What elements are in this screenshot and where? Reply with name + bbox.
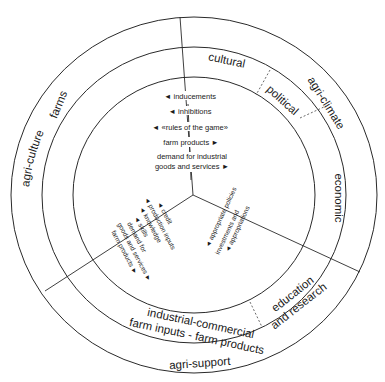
dashed-divider-industrial-education xyxy=(250,302,262,327)
item-inhibitions: ◄ inhibitions xyxy=(169,107,212,116)
center-top-list: ◄ inducements ◄ inhibitions ◄ «rules of … xyxy=(148,91,232,172)
label-cultural: cultural xyxy=(207,50,246,69)
label-agri-support: agri-support xyxy=(169,355,232,371)
label-agri-culture: agri-culture xyxy=(19,128,46,188)
item-inducements: ◄ inducements xyxy=(164,92,216,101)
agriculture-system-diagram: agri-culture agri-climate agri-support f… xyxy=(0,0,385,382)
dashed-divider-political-economic xyxy=(300,106,326,118)
label-political: political xyxy=(264,83,301,118)
center-right-list: ◄ appropriate policies investments and ◄… xyxy=(203,185,257,259)
item-goods-services: goods and services ► xyxy=(155,162,229,171)
center-left-list: ◄ credit ◄ production inputs ◄ knowledge… xyxy=(103,191,193,286)
item-farm-products: farm products ► xyxy=(163,138,218,147)
label-economic: economic xyxy=(333,173,345,222)
item-rules-of-the-game: ◄ «rules of the game» xyxy=(152,123,228,132)
item-demand-industrial: demand for industrial xyxy=(157,152,227,161)
